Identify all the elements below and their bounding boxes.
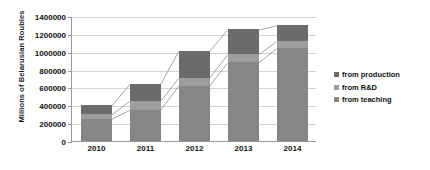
bar-segment [179,86,210,141]
legend-label: from production [342,70,400,79]
y-axis-tick-label: 0 [62,138,66,147]
bar-segment [81,119,112,141]
bar-series-layer [72,17,316,141]
bar-segment [228,54,259,62]
chart-legend: from productionfrom R&Dfrom teaching [334,70,400,108]
bar-column [228,29,259,141]
y-axis-tick-label: 1000000 [35,48,66,57]
legend-item[interactable]: from production [334,70,400,79]
x-axis-label: 2014 [284,144,302,153]
bar-segment [228,62,259,141]
legend-label: from teaching [342,95,392,104]
x-axis-label: 2011 [137,144,154,153]
bar-column [277,25,308,141]
x-axis-label: 2012 [186,144,204,153]
bar-segment [228,29,259,54]
y-axis-tick-label: 800000 [39,66,66,75]
bar-column [130,84,161,141]
y-axis-tick-label: 400000 [39,102,66,111]
bar-segment [81,105,112,114]
bar-column [179,51,210,141]
legend-swatch-icon [334,72,339,77]
y-axis-tick-label: 600000 [39,84,66,93]
legend-swatch-icon [334,85,339,90]
bar-segment [179,78,210,86]
y-axis-tick [68,142,72,143]
y-axis-tick-label: 1400000 [35,13,66,22]
bar-segment [130,110,161,141]
bar-segment [277,41,308,48]
x-axis-label: 2010 [88,144,106,153]
bar-segment [130,101,161,110]
y-axis-title: Millions of Belarusian Roubles [17,2,26,132]
bar-segment [277,48,308,141]
bar-segment [277,25,308,41]
legend-item[interactable]: from teaching [334,95,400,104]
chart-container: Millions of Belarusian Roubles 020000040… [0,0,430,170]
y-axis-tick-label: 1200000 [35,30,66,39]
plot-area: 0200000400000600000800000100000012000001… [71,17,316,142]
legend-label: from R&D [342,83,377,92]
legend-swatch-icon [334,97,339,102]
bar-segment [179,51,210,78]
y-axis-tick-label: 200000 [39,120,66,129]
bar-column [81,105,112,141]
x-axis-label: 2013 [235,144,253,153]
bar-segment [130,84,161,101]
legend-item[interactable]: from R&D [334,83,400,92]
